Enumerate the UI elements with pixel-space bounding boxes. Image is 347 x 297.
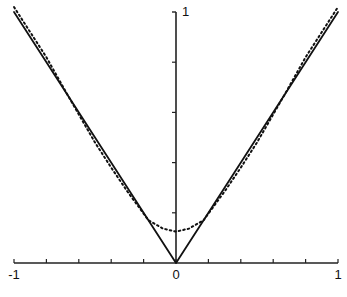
x-tick-label: 0 <box>172 267 179 282</box>
x-tick-label: -1 <box>8 267 20 282</box>
y-tick-label: 1 <box>182 4 189 19</box>
tick-labels: -1011 <box>8 4 341 282</box>
x-tick-label: 1 <box>334 267 341 282</box>
axes <box>14 12 338 263</box>
chart: -1011 <box>0 0 347 297</box>
